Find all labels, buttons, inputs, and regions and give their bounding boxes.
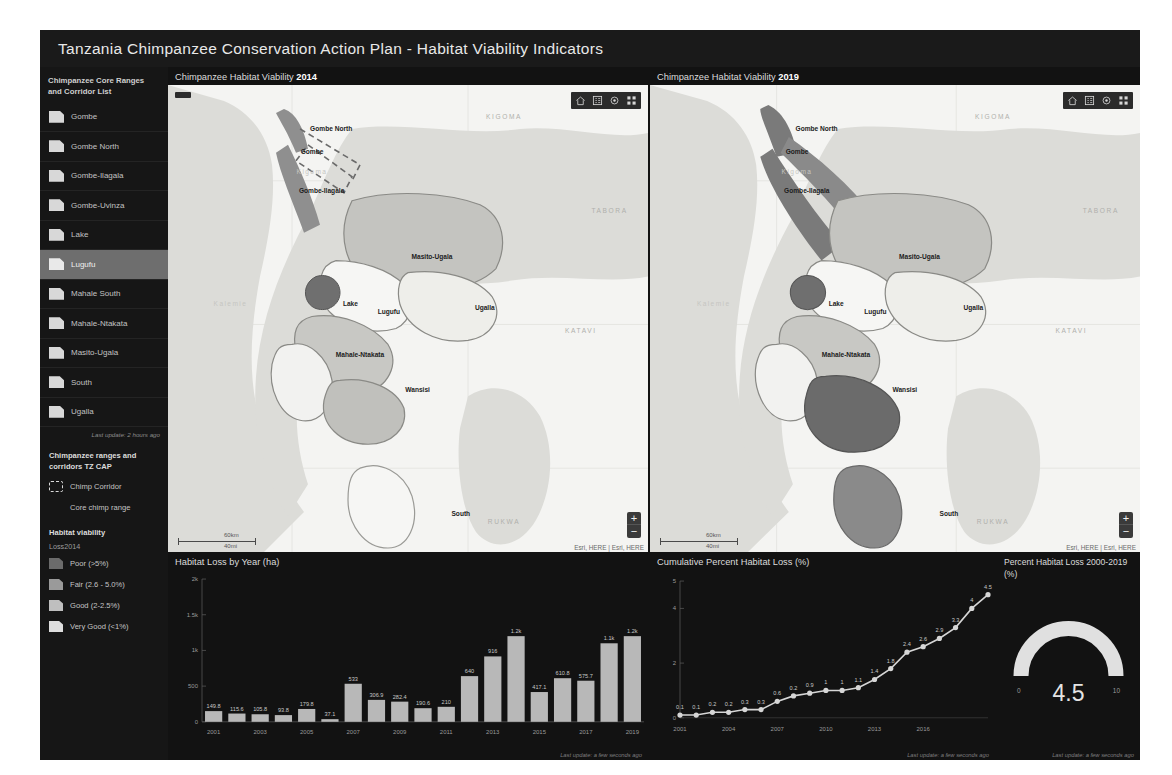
- svg-text:2001: 2001: [673, 726, 687, 732]
- legend-icon[interactable]: [1084, 95, 1095, 106]
- svg-text:37.1: 37.1: [325, 711, 336, 717]
- map-toolbar-2014[interactable]: [571, 92, 641, 109]
- svg-text:4: 4: [970, 597, 973, 603]
- svg-text:2001: 2001: [207, 729, 221, 735]
- viability-heading: Habitat viability: [49, 527, 160, 538]
- map-feature-label: South: [451, 510, 470, 517]
- polygon-icon: [49, 258, 64, 270]
- home-icon[interactable]: [1067, 95, 1078, 106]
- grid-icon[interactable]: [1118, 95, 1129, 106]
- home-icon[interactable]: [575, 95, 586, 106]
- range-item[interactable]: South: [40, 368, 168, 398]
- svg-text:533: 533: [349, 676, 358, 682]
- map-feature-label: KIGOMA: [486, 113, 522, 120]
- svg-text:2019: 2019: [626, 729, 640, 735]
- svg-text:0.6: 0.6: [773, 690, 781, 696]
- chart-card-cumulative-loss: Cumulative Percent Habitat Loss (%) 0245…: [650, 552, 995, 760]
- map-feature-label: KATAVI: [565, 327, 597, 334]
- map-surface-2014[interactable]: Gombe NorthGombeKigomaGombe-IlagalaMasit…: [168, 85, 648, 552]
- map-graphic-2014: [168, 85, 648, 552]
- legend-icon[interactable]: [592, 95, 603, 106]
- viability-class-label: Very Good (<1%): [70, 622, 128, 631]
- map-feature-label: Ugalla: [963, 303, 983, 310]
- grid-icon[interactable]: [626, 95, 637, 106]
- legend-core-range-label: Core chimp range: [70, 503, 130, 512]
- viability-swatch-icon: [49, 558, 63, 569]
- map-title-year-2019: 2019: [778, 72, 799, 82]
- map-feature-label: RUKWA: [488, 517, 520, 524]
- range-item[interactable]: Masito-Ugala: [40, 339, 168, 369]
- scale-bar-line: [178, 541, 256, 542]
- gauge-max-label: 10: [1113, 687, 1120, 694]
- scale-bar-line: [660, 541, 738, 542]
- range-item-label: Gombe North: [71, 142, 119, 151]
- map-legend: Chimpanzee ranges and corridors TZ CAP C…: [40, 445, 168, 632]
- range-item[interactable]: Ugalla: [40, 398, 168, 428]
- range-item[interactable]: Lake: [40, 221, 168, 251]
- viability-sub-label: Loss2014: [49, 542, 160, 551]
- dashboard-app: Tanzania Chimpanzee Conservation Action …: [40, 30, 1140, 760]
- range-item[interactable]: Mahale South: [40, 280, 168, 310]
- viability-class-row: Poor (>5%): [49, 558, 160, 569]
- range-item[interactable]: Mahale-Ntakata: [40, 309, 168, 339]
- range-item[interactable]: Gombe-Uvinza: [40, 191, 168, 221]
- zoom-out-button[interactable]: −: [1119, 525, 1133, 538]
- polygon-icon: [49, 406, 64, 418]
- zoom-out-button[interactable]: −: [627, 525, 641, 538]
- map-feature-label: Gombe North: [796, 124, 838, 131]
- sidebar-list-update: Last update: 2 hours ago: [40, 427, 168, 445]
- viability-class-label: Good (2-2.5%): [70, 601, 120, 610]
- svg-text:1k: 1k: [192, 647, 199, 653]
- range-item-label: Lugufu: [71, 260, 95, 269]
- zoom-controls-2019[interactable]: + −: [1119, 512, 1133, 538]
- map-surface-2019[interactable]: Gombe NorthGombeKigomaGombe-IlagalaMasit…: [650, 85, 1140, 552]
- line-chart-svg[interactable]: 02450.10.10.20.20.30.30.60.20.9111.11.41…: [650, 569, 995, 760]
- zoom-controls-2014[interactable]: + −: [627, 512, 641, 538]
- range-item[interactable]: Gombe: [40, 103, 168, 133]
- viability-swatch-icon: [49, 600, 63, 611]
- svg-text:2k: 2k: [192, 576, 199, 582]
- zoom-in-button[interactable]: +: [627, 512, 641, 525]
- map-card-2014: Chimpanzee Habitat Viability 2014: [168, 67, 648, 552]
- svg-text:500: 500: [188, 683, 199, 689]
- svg-text:2.4: 2.4: [903, 641, 911, 647]
- svg-text:0.2: 0.2: [790, 685, 798, 691]
- core-range-list[interactable]: GombeGombe NorthGombe-IlagalaGombe-Uvinz…: [40, 103, 168, 428]
- svg-text:2003: 2003: [253, 729, 267, 735]
- locate-icon[interactable]: [609, 95, 620, 106]
- legend-chimp-corridor: Chimp Corridor: [49, 481, 160, 492]
- svg-text:1.1k: 1.1k: [604, 635, 615, 641]
- viability-class-label: Poor (>5%): [70, 559, 109, 568]
- range-item[interactable]: Lugufu: [40, 250, 168, 280]
- polygon-icon: [49, 317, 64, 329]
- map-feature-label: Gombe-Ilagala: [299, 187, 344, 194]
- page-title: Tanzania Chimpanzee Conservation Action …: [40, 40, 603, 58]
- map-feature-label: Kigoma: [782, 167, 813, 174]
- map-feature-label: Masito-Ugala: [411, 253, 452, 260]
- polygon-icon: [49, 288, 64, 300]
- map-toolbar-2019[interactable]: [1063, 92, 1133, 109]
- svg-text:3.3: 3.3: [952, 617, 960, 623]
- map-feature-label: KIGOMA: [975, 113, 1011, 120]
- bar-chart-svg[interactable]: 05001k1.5k2k149.8115.6105.893.8179.837.1…: [168, 569, 648, 760]
- scale-bar-2014: 60km 40mi: [178, 541, 256, 542]
- range-item[interactable]: Gombe North: [40, 132, 168, 162]
- svg-text:2013: 2013: [868, 726, 882, 732]
- basemap-widget-2014[interactable]: [175, 92, 191, 98]
- line-chart-area: 02450.10.10.20.20.30.30.60.20.9111.11.41…: [650, 569, 995, 760]
- svg-text:149.8: 149.8: [207, 703, 221, 709]
- range-item[interactable]: Gombe-Ilagala: [40, 162, 168, 192]
- locate-icon[interactable]: [1101, 95, 1112, 106]
- svg-text:179.8: 179.8: [300, 701, 314, 707]
- sidebar-list-heading: Chimpanzee Core Ranges and Corridor List: [40, 67, 168, 103]
- app-header: Tanzania Chimpanzee Conservation Action …: [40, 30, 1140, 67]
- svg-text:2.6: 2.6: [919, 636, 927, 642]
- bar-chart-area: 05001k1.5k2k149.8115.6105.893.8179.837.1…: [168, 569, 648, 760]
- chart-card-gauge: Percent Habitat Loss 2000-2019 (%) 4.5 0…: [997, 552, 1140, 760]
- zoom-in-button[interactable]: +: [1119, 512, 1133, 525]
- svg-text:1.4: 1.4: [871, 668, 879, 674]
- map-feature-label: Masito-Ugala: [899, 253, 940, 260]
- polygon-icon: [49, 199, 64, 211]
- legend-corridor-label: Chimp Corridor: [70, 482, 121, 491]
- viability-swatch-icon: [49, 621, 63, 632]
